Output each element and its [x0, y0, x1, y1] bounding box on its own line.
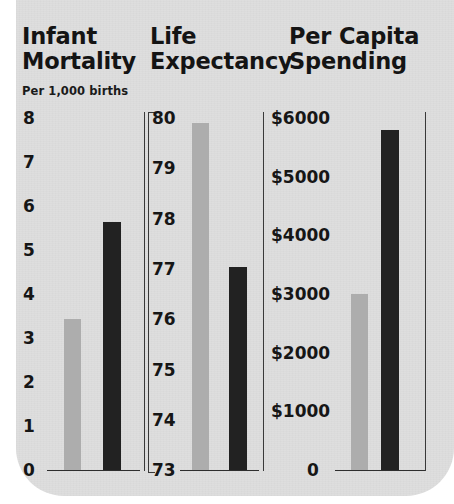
- y-tick-label: 4: [23, 284, 35, 304]
- right-axis-rule: [425, 112, 426, 471]
- panel-divider: [263, 112, 264, 471]
- bar-light: [351, 294, 368, 470]
- y-tick-label: 76: [152, 309, 176, 329]
- y-tick-label: $3000: [271, 284, 330, 304]
- y-tick-label: 7: [23, 152, 35, 172]
- y-tick-label: 77: [152, 259, 176, 279]
- bar-light: [64, 319, 81, 470]
- y-tick-label: $4000: [271, 225, 330, 245]
- chart-panel-infant-mortality: Infant Mortality Per 1,000 births 8 7 6 …: [16, 0, 144, 496]
- x-axis-baseline: [335, 470, 425, 471]
- y-tick-label: 0: [23, 460, 35, 480]
- panel-title: Infant Mortality: [22, 24, 136, 74]
- x-axis-baseline: [47, 470, 140, 471]
- y-tick-label: 5: [23, 240, 35, 260]
- y-tick-label: 1: [23, 416, 35, 436]
- y-tick-label: $6000: [271, 108, 330, 128]
- y-tick-label: 73: [152, 460, 176, 480]
- y-tick-label: $2000: [271, 343, 330, 363]
- y-tick-label: 0: [307, 460, 319, 480]
- panel-title: Per Capita Spending: [289, 24, 419, 74]
- panel-divider: [144, 112, 145, 471]
- y-tick-label: 8: [23, 108, 35, 128]
- y-tick-label: 3: [23, 328, 35, 348]
- y-tick-label: $5000: [271, 167, 330, 187]
- y-tick-label: 2: [23, 372, 35, 392]
- y-tick-label: 74: [152, 410, 176, 430]
- y-tick-label: 79: [152, 158, 176, 178]
- y-tick-label: 6: [23, 196, 35, 216]
- x-axis-baseline: [180, 470, 259, 471]
- bar-dark: [103, 222, 121, 470]
- y-tick-label: 80: [152, 108, 176, 128]
- chart-panel-life-expectancy: Life Expectancy 80 79 78 77 76 75 74 73: [144, 0, 263, 496]
- plot-area: 80 79 78 77 76 75 74 73: [144, 112, 263, 472]
- plot-area: 8 7 6 5 4 3 2 1 0: [16, 112, 144, 472]
- bar-dark: [229, 267, 247, 470]
- y-tick-label: 78: [152, 209, 176, 229]
- y-tick-label: $1000: [271, 401, 330, 421]
- bar-light: [192, 123, 209, 470]
- panel-subtitle: Per 1,000 births: [22, 84, 128, 98]
- y-tick-label: 75: [152, 360, 176, 380]
- bar-dark: [381, 130, 399, 470]
- chart-figure: Infant Mortality Per 1,000 births 8 7 6 …: [16, 0, 454, 496]
